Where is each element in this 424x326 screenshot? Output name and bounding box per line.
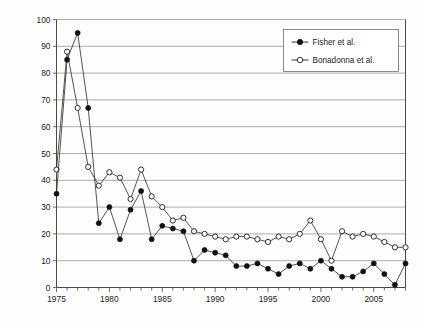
data-point-1-1995 bbox=[265, 239, 270, 244]
data-point-0-1979 bbox=[96, 221, 101, 226]
data-point-1-2003 bbox=[350, 234, 355, 239]
data-point-1-1980 bbox=[107, 170, 112, 175]
x-tick-label-1995: 1995 bbox=[259, 294, 278, 304]
x-tick-label-1975: 1975 bbox=[47, 294, 66, 304]
data-point-0-1986 bbox=[170, 226, 175, 231]
series-bonadonna bbox=[54, 49, 408, 263]
data-point-1-1979 bbox=[96, 183, 101, 188]
data-point-0-2006 bbox=[382, 272, 387, 277]
y-tick-label-10: 10 bbox=[41, 256, 51, 266]
data-point-1-1999 bbox=[308, 218, 313, 223]
data-point-0-1992 bbox=[234, 264, 239, 269]
data-point-0-1981 bbox=[117, 237, 122, 242]
data-point-1-1989 bbox=[202, 231, 207, 236]
y-tick-labels-group: 0102030405060708090100 bbox=[37, 15, 57, 293]
data-point-1-2002 bbox=[339, 229, 344, 234]
x-tick-label-1990: 1990 bbox=[206, 294, 225, 304]
data-point-0-1976 bbox=[65, 57, 70, 62]
data-point-0-1991 bbox=[223, 253, 228, 258]
data-point-0-1994 bbox=[255, 261, 260, 266]
data-point-1-1992 bbox=[234, 234, 239, 239]
data-point-1-2001 bbox=[329, 258, 334, 263]
data-point-0-2002 bbox=[340, 274, 345, 279]
data-point-0-1987 bbox=[181, 229, 186, 234]
data-point-0-1997 bbox=[287, 264, 292, 269]
data-point-0-1977 bbox=[75, 30, 80, 35]
y-tick-label-0: 0 bbox=[46, 283, 51, 293]
data-point-1-1984 bbox=[149, 194, 154, 199]
legend-marker-0 bbox=[297, 39, 302, 44]
data-point-1-1986 bbox=[170, 218, 175, 223]
y-tick-label-80: 80 bbox=[41, 68, 51, 78]
data-point-0-2007 bbox=[392, 282, 397, 287]
data-point-0-1996 bbox=[276, 272, 281, 277]
y-tick-label-70: 70 bbox=[41, 95, 51, 105]
data-point-0-1982 bbox=[128, 207, 133, 212]
x-tick-label-1985: 1985 bbox=[153, 294, 172, 304]
data-point-1-2000 bbox=[318, 237, 323, 242]
data-point-0-2004 bbox=[361, 269, 366, 274]
data-point-0-1984 bbox=[149, 237, 154, 242]
data-point-1-1998 bbox=[297, 231, 302, 236]
data-point-0-2008 bbox=[403, 261, 408, 266]
data-point-1-1997 bbox=[287, 237, 292, 242]
data-point-1-1996 bbox=[276, 234, 281, 239]
data-point-1-1985 bbox=[160, 205, 165, 210]
data-point-1-1993 bbox=[244, 234, 249, 239]
data-point-1-1981 bbox=[117, 175, 122, 180]
data-point-0-1995 bbox=[266, 266, 271, 271]
data-point-1-1990 bbox=[213, 234, 218, 239]
data-point-1-1976 bbox=[64, 49, 69, 54]
legend-marker-1 bbox=[297, 57, 302, 62]
data-point-0-1978 bbox=[86, 105, 91, 110]
data-point-1-2006 bbox=[382, 239, 387, 244]
data-point-1-1982 bbox=[128, 196, 133, 201]
data-point-0-1980 bbox=[107, 205, 112, 210]
y-tick-label-100: 100 bbox=[37, 15, 51, 25]
data-point-1-1994 bbox=[255, 237, 260, 242]
data-point-1-1988 bbox=[191, 229, 196, 234]
x-tick-labels-group: 1975198019851990199520002005 bbox=[47, 294, 383, 304]
data-point-0-2000 bbox=[318, 258, 323, 263]
data-point-0-1998 bbox=[297, 261, 302, 266]
data-point-0-1975 bbox=[54, 191, 59, 196]
chart-container: 0102030405060708090100 19751980198519901… bbox=[0, 0, 424, 326]
legend: Fisher et al.Bonadonna et al. bbox=[284, 30, 399, 72]
data-point-0-1989 bbox=[202, 247, 207, 252]
y-tick-label-90: 90 bbox=[41, 41, 51, 51]
data-point-1-1991 bbox=[223, 237, 228, 242]
data-point-1-2005 bbox=[371, 234, 376, 239]
data-point-0-2003 bbox=[350, 274, 355, 279]
data-point-0-1993 bbox=[244, 264, 249, 269]
legend-box bbox=[284, 30, 399, 72]
series-line-1 bbox=[57, 52, 406, 261]
data-point-1-1983 bbox=[139, 167, 144, 172]
y-tick-label-60: 60 bbox=[41, 122, 51, 132]
data-point-0-2005 bbox=[371, 261, 376, 266]
data-point-1-1987 bbox=[181, 215, 186, 220]
data-point-0-2001 bbox=[329, 266, 334, 271]
data-point-1-2008 bbox=[403, 245, 408, 250]
y-tick-label-20: 20 bbox=[41, 229, 51, 239]
legend-label-1: Bonadonna et al. bbox=[313, 56, 375, 65]
data-point-0-1990 bbox=[213, 250, 218, 255]
y-tick-label-50: 50 bbox=[41, 149, 51, 159]
line-chart: 0102030405060708090100 19751980198519901… bbox=[0, 0, 424, 326]
data-point-0-1999 bbox=[308, 266, 313, 271]
x-tick-label-1980: 1980 bbox=[100, 294, 119, 304]
data-point-0-1988 bbox=[191, 258, 196, 263]
data-point-0-1985 bbox=[160, 223, 165, 228]
data-point-1-1977 bbox=[75, 105, 80, 110]
data-point-1-1978 bbox=[86, 164, 91, 169]
y-tick-label-40: 40 bbox=[41, 175, 51, 185]
data-point-0-1983 bbox=[139, 189, 144, 194]
y-tick-label-30: 30 bbox=[41, 202, 51, 212]
data-point-1-2004 bbox=[361, 231, 366, 236]
data-point-1-2007 bbox=[392, 245, 397, 250]
legend-label-0: Fisher et al. bbox=[313, 38, 356, 47]
x-tick-label-2000: 2000 bbox=[312, 294, 331, 304]
x-tickmarks-group bbox=[57, 288, 406, 293]
x-tick-label-2005: 2005 bbox=[364, 294, 383, 304]
